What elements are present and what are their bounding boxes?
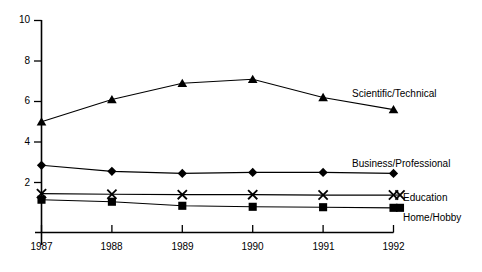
x-tick-label-1989: 1989 bbox=[160, 242, 205, 252]
x-tick-label-1991: 1991 bbox=[301, 242, 346, 252]
y-axis-ticks bbox=[34, 21, 42, 183]
series-label-education: Education bbox=[403, 192, 447, 203]
chart-axes bbox=[35, 20, 394, 245]
y-tick-label-4: 4 bbox=[10, 137, 30, 147]
series-label-scientific-technical: Scientific/Technical bbox=[352, 88, 436, 99]
series-label-business-professional: Business/Professional bbox=[352, 158, 450, 169]
x-axis-ticks bbox=[42, 225, 394, 233]
x-tick-label-1990: 1990 bbox=[230, 242, 275, 252]
chart-plot-area bbox=[0, 0, 482, 272]
chart-container: 10 8 6 4 2 1987 1988 1989 1990 1991 1992… bbox=[0, 0, 482, 272]
x-tick-label-1988: 1988 bbox=[89, 242, 134, 252]
y-tick-label-2: 2 bbox=[10, 178, 30, 188]
x-tick-label-1987: 1987 bbox=[19, 242, 64, 252]
x-tick-label-1992: 1992 bbox=[371, 242, 416, 252]
chart-series-layer bbox=[37, 75, 405, 212]
y-tick-label-8: 8 bbox=[10, 56, 30, 66]
y-tick-label-10: 10 bbox=[10, 15, 30, 25]
series-education bbox=[37, 189, 405, 200]
series-scientific-technical bbox=[37, 75, 399, 126]
y-tick-label-6: 6 bbox=[10, 96, 30, 106]
series-home-hobby bbox=[37, 196, 404, 212]
series-business-professional bbox=[37, 161, 398, 178]
series-label-home-hobby: Home/Hobby bbox=[403, 212, 461, 223]
